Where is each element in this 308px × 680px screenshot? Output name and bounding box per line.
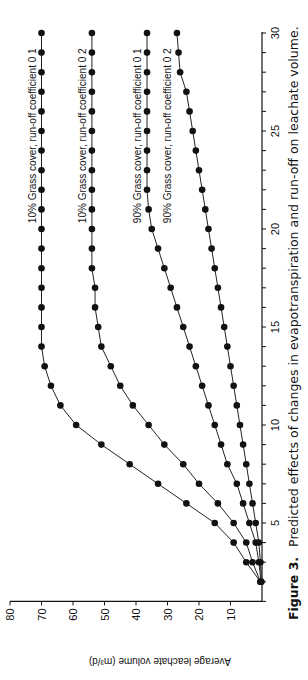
data-point	[48, 382, 55, 389]
data-point	[38, 186, 45, 193]
data-point	[38, 128, 45, 135]
data-point	[57, 402, 64, 409]
data-point	[243, 461, 250, 468]
data-point	[177, 69, 184, 76]
data-point	[246, 481, 253, 488]
data-point	[144, 69, 151, 76]
data-point	[234, 481, 241, 488]
data-point	[211, 265, 218, 272]
x-tick-label: 20	[269, 223, 281, 235]
data-point	[180, 324, 187, 331]
data-point	[89, 108, 96, 115]
data-point	[205, 402, 212, 409]
data-point	[215, 500, 222, 507]
data-point	[117, 382, 124, 389]
data-point	[161, 265, 168, 272]
data-point	[240, 441, 247, 448]
data-point	[230, 539, 237, 546]
y-tick-label: 20	[193, 608, 205, 620]
data-point	[227, 363, 234, 370]
data-point	[174, 30, 181, 37]
data-point	[89, 128, 96, 135]
data-point	[98, 441, 105, 448]
data-point	[208, 245, 215, 252]
data-point	[218, 304, 225, 311]
data-point	[183, 89, 190, 96]
data-point	[89, 265, 96, 272]
series-1	[38, 30, 264, 585]
data-point	[218, 441, 225, 448]
data-point	[183, 500, 190, 507]
data-point	[186, 108, 193, 115]
data-point	[144, 108, 151, 115]
data-point	[144, 167, 151, 174]
data-point	[199, 382, 206, 389]
data-point	[38, 147, 45, 154]
data-point	[89, 186, 96, 193]
series-label-2: 10% Grass cover, run-off coefficient 0 2	[77, 48, 88, 223]
data-point	[175, 49, 182, 56]
data-point	[148, 226, 155, 233]
data-point	[155, 481, 162, 488]
data-point	[144, 147, 151, 154]
rotated-figure: 510152025301020304050607080 10% Grass co…	[0, 0, 308, 680]
data-point	[211, 422, 218, 429]
data-point	[234, 402, 241, 409]
series-line	[42, 33, 261, 582]
y-tick-label: 40	[130, 608, 142, 620]
data-point	[144, 128, 151, 135]
data-point	[144, 49, 151, 56]
data-point	[38, 167, 45, 174]
data-point	[89, 89, 96, 96]
data-point	[243, 559, 250, 566]
data-point	[89, 49, 96, 56]
leachate-chart: 510152025301020304050607080 10% Grass co…	[0, 0, 308, 680]
data-point	[205, 226, 212, 233]
y-tick-label: 70	[36, 608, 48, 620]
data-point	[174, 304, 181, 311]
series-label-4: 90% Grass cover, run-off coefficient 0 2	[162, 48, 173, 223]
data-point	[202, 206, 209, 213]
data-point	[92, 284, 99, 291]
data-point	[98, 343, 105, 350]
x-tick-label: 30	[269, 27, 281, 39]
data-point	[196, 481, 203, 488]
y-axis-title: Average leachate volume (m³/d)	[89, 656, 231, 667]
data-point	[73, 422, 80, 429]
data-point	[186, 343, 193, 350]
x-tick-label: 15	[269, 321, 281, 333]
x-tick-label: 5	[269, 520, 281, 526]
data-point	[38, 304, 45, 311]
caption-label: Figure 3.	[286, 557, 301, 620]
caption-text: Predicted effects of changes in evapotra…	[286, 26, 301, 547]
data-point	[38, 324, 45, 331]
data-point	[193, 363, 200, 370]
data-point	[199, 186, 206, 193]
data-point	[89, 69, 96, 76]
data-point	[41, 363, 48, 370]
figure-caption: Figure 3. Predicted effects of changes i…	[286, 26, 301, 620]
data-point	[258, 579, 265, 586]
data-point	[246, 520, 253, 527]
y-tick-label: 80	[4, 608, 16, 620]
data-point	[89, 30, 96, 37]
data-point	[249, 559, 256, 566]
data-point	[256, 539, 263, 546]
data-point	[167, 284, 174, 291]
data-point	[89, 245, 96, 252]
data-point	[196, 167, 203, 174]
data-point	[38, 108, 45, 115]
data-point	[257, 559, 264, 566]
y-tick-label: 50	[99, 608, 111, 620]
data-point	[221, 324, 228, 331]
data-point	[193, 147, 200, 154]
data-point	[89, 226, 96, 233]
data-point	[224, 343, 231, 350]
data-point	[130, 402, 137, 409]
data-point	[243, 539, 250, 546]
data-point	[89, 147, 96, 154]
data-point	[95, 324, 102, 331]
series-label-3: 90% Grass cover, run-off coefficient 0 1	[132, 48, 143, 223]
data-point	[224, 461, 231, 468]
data-point	[230, 520, 237, 527]
